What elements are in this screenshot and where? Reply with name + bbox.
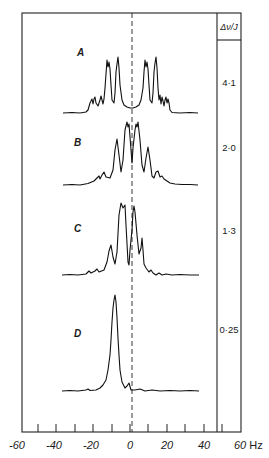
tick-label: 60 [234, 439, 247, 451]
plot-frame [22, 13, 241, 432]
tick-label: -40 [46, 439, 63, 451]
spectrum-label-d: D [74, 328, 81, 339]
spectrum-trace-c [62, 203, 199, 275]
ratio-header: Δν/J [219, 22, 238, 32]
x-axis-labels: -60 -40 -20 0 20 40 60 Hz [9, 439, 263, 451]
tick-label: 0 [127, 439, 134, 451]
spectra-plot: -60 -40 -20 0 20 40 60 Hz Δν/J 4·1 2·0 1… [0, 0, 269, 458]
axis-unit: Hz [249, 439, 262, 451]
tick-label: 20 [160, 439, 174, 451]
ratio-value-d: 0·25 [219, 324, 238, 335]
nmr-spectra-figure: -60 -40 -20 0 20 40 60 Hz Δν/J 4·1 2·0 1… [0, 0, 269, 458]
spectrum-label-b: B [74, 137, 81, 148]
spectrum-label-c: C [74, 223, 82, 234]
spectrum-trace-d [62, 295, 199, 391]
ratio-value-b: 2·0 [222, 142, 236, 153]
tick-label: 40 [198, 439, 211, 451]
spectrum-trace-a [63, 57, 198, 113]
spectrum-trace-b [63, 122, 198, 185]
x-axis-ticks [38, 424, 222, 432]
tick-label: -20 [83, 439, 100, 451]
ratio-value-a: 4·1 [222, 77, 236, 88]
tick-label: -60 [9, 439, 26, 451]
spectrum-label-a: A [76, 47, 84, 58]
ratio-value-c: 1·3 [222, 225, 236, 236]
